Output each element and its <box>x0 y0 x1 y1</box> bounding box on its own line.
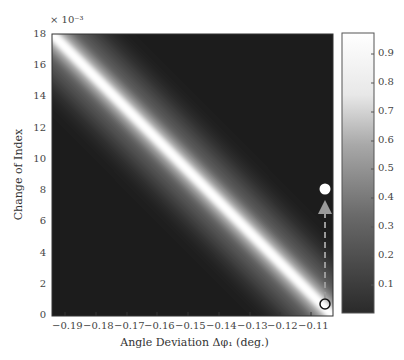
x-tick-label: −0.16 <box>144 320 175 331</box>
x-tick-label: −0.17 <box>114 320 145 331</box>
y-tick-label: 2 <box>40 278 46 289</box>
x-tick-label: −0.11 <box>298 320 329 331</box>
y-tick-label: 6 <box>40 215 46 226</box>
x-tick-label: −0.19 <box>52 320 83 331</box>
colorbar-tick-label: 0.5 <box>378 162 394 173</box>
colorbar-tick-label: 0.1 <box>378 278 394 289</box>
y-axis-label: Change of Index <box>12 115 25 235</box>
colorbar-tick-label: 0.3 <box>378 220 394 231</box>
colorbar-tick-label: 0.4 <box>378 191 394 202</box>
y-exponent-label: × 10⁻³ <box>50 14 84 25</box>
colorbar-tick-label: 0.6 <box>378 134 394 145</box>
colorbar-tick-label: 0.8 <box>378 76 394 87</box>
x-tick-label: −0.14 <box>206 320 237 331</box>
heatmap-chart <box>0 0 404 360</box>
y-tick-label: 0 <box>40 309 46 320</box>
x-axis-label: Angle Deviation Δφ₁ (deg.) <box>0 336 404 349</box>
colorbar-tick-label: 0.9 <box>378 47 394 58</box>
x-tick-label: −0.12 <box>267 320 298 331</box>
y-tick-label: 4 <box>40 247 46 258</box>
y-tick-label: 12 <box>33 122 46 133</box>
x-tick-label: −0.18 <box>83 320 114 331</box>
colorbar <box>342 33 374 313</box>
y-tick-label: 10 <box>33 153 46 164</box>
colorbar-tick-label: 0.7 <box>378 105 394 116</box>
y-tick-label: 16 <box>33 59 46 70</box>
y-tick-label: 8 <box>40 184 46 195</box>
heatmap-area <box>40 22 345 328</box>
colorbar-tick-label: 0.2 <box>378 249 394 260</box>
x-tick-label: −0.15 <box>175 320 206 331</box>
end-point-marker <box>320 184 331 195</box>
y-tick-label: 14 <box>33 90 46 101</box>
x-axis-label-text: Angle Deviation Δφ₁ (deg.) <box>120 336 269 349</box>
x-tick-label: −0.13 <box>237 320 268 331</box>
y-tick-label: 18 <box>33 28 46 39</box>
